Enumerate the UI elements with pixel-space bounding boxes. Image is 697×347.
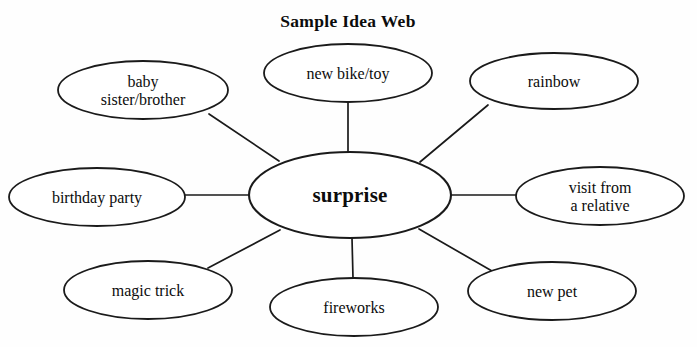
node-label-surprise: surprise [312,183,387,207]
node-new-pet[interactable]: new pet [468,262,636,320]
edge-surprise-to-fireworks [352,238,353,278]
edge-surprise-to-new-pet [419,229,492,271]
node-fireworks[interactable]: fireworks [270,278,438,336]
idea-web-canvas: babysister/brothernew bike/toyrainbowvis… [0,0,697,347]
node-label-visit-from-a-relative: visit froma relative [569,179,632,214]
node-label-fireworks: fireworks [323,299,384,316]
node-label-magic-trick: magic trick [112,282,184,300]
node-birthday-party[interactable]: birthday party [9,168,185,226]
node-baby-sister-brother[interactable]: babysister/brother [58,61,228,119]
node-surprise[interactable]: surprise [249,152,451,238]
node-label-new-bike-toy: new bike/toy [306,65,389,83]
edge-surprise-to-baby-sister-brother [209,114,279,161]
node-label-birthday-party: birthday party [52,189,142,207]
edge-surprise-to-rainbow [420,105,488,162]
idea-web-diagram: babysister/brothernew bike/toyrainbowvis… [0,0,697,347]
page-title: Sample Idea Web [280,11,415,31]
node-new-bike-toy[interactable]: new bike/toy [264,44,432,102]
node-label-rainbow: rainbow [528,73,581,90]
node-rainbow[interactable]: rainbow [470,53,638,109]
edge-surprise-to-magic-trick [208,230,280,268]
node-label-new-pet: new pet [527,283,578,301]
node-magic-trick[interactable]: magic trick [64,261,232,319]
node-visit-from-a-relative[interactable]: visit froma relative [516,167,684,225]
node-group: babysister/brothernew bike/toyrainbowvis… [9,44,684,336]
